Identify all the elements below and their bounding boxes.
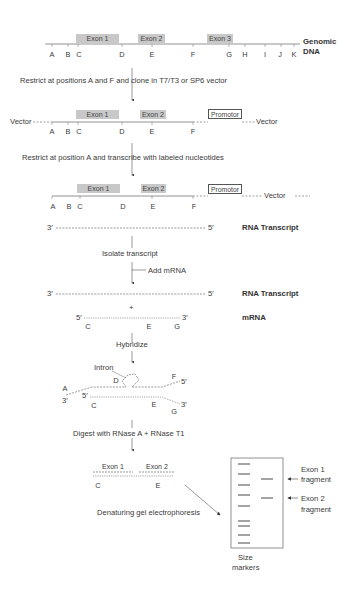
mrna-3prime: 3′ xyxy=(182,314,188,322)
hybrid-pos-e: E xyxy=(152,401,157,408)
gel-size-markers-1: Size xyxy=(238,554,253,562)
hybrid-3prime-left: 3′ xyxy=(62,397,68,405)
genomic-pos-g: G xyxy=(226,51,232,58)
digest-exon-1-label: Exon 1 xyxy=(102,463,124,470)
linear-pos-c: C xyxy=(77,203,82,210)
step-restrict-clone: Restrict at positions A and F and clone … xyxy=(20,77,227,85)
gel-size-markers-2: markers xyxy=(232,564,259,572)
step-hybridize: Hybridize xyxy=(116,341,148,349)
vector-pos-c: C xyxy=(76,128,81,135)
vector-exon-1: Exon 1 xyxy=(76,110,119,119)
gel-exon1-label-1: Exon 1 xyxy=(301,466,325,474)
mrna-5prime: 5′ xyxy=(76,314,82,322)
step-isolate: Isolate transcript xyxy=(102,250,158,258)
hybrid-pos-c: C xyxy=(91,402,96,409)
linear-pos-e: E xyxy=(151,203,156,210)
digest-exon-2-label: Exon 2 xyxy=(146,463,168,470)
gel-exon2-label-1: Exon 2 xyxy=(301,495,325,503)
step-digest: Digest with RNase A + RNase T1 xyxy=(73,430,185,438)
genomic-pos-e: E xyxy=(150,51,155,58)
transcript2-label: RNA Transcript xyxy=(242,290,298,298)
gel-exon2-label-2: fragment xyxy=(301,506,331,514)
mrna-pos-g: G xyxy=(174,323,180,330)
digest-pos-c: C xyxy=(95,482,100,489)
linear-pos-a: A xyxy=(51,203,56,210)
genomic-exon-1: Exon 1 xyxy=(76,34,119,43)
transcript2-3prime: 3′ xyxy=(47,290,53,298)
genomic-pos-k: K xyxy=(292,51,297,58)
linear-exon-1: Exon 1 xyxy=(77,184,120,193)
vector-promoter: Promotor xyxy=(208,109,242,119)
genomic-pos-f: F xyxy=(191,51,196,58)
genomic-exon-3: Exon 3 xyxy=(207,34,233,43)
mrna-pos-c: C xyxy=(85,323,90,330)
genomic-pos-c: C xyxy=(76,51,81,58)
digest-pos-e: E xyxy=(156,482,161,489)
vector-left-label: Vector xyxy=(10,118,32,126)
hybrid-5prime-top: 5′ xyxy=(181,378,187,386)
linear-pos-f: F xyxy=(192,203,197,210)
vector-pos-d: D xyxy=(119,128,124,135)
vector-right-label: Vector xyxy=(256,118,278,126)
linear-pos-b: B xyxy=(67,203,72,210)
genomic-dna-label-1: Genomic xyxy=(303,38,336,46)
genomic-pos-a: A xyxy=(50,51,55,58)
linear-exon-2: Exon 2 xyxy=(141,184,166,193)
vector-exon-2: Exon 2 xyxy=(140,110,166,119)
mrna-pos-e: E xyxy=(147,323,152,330)
genomic-pos-j: J xyxy=(278,51,282,58)
hybrid-pos-f: F xyxy=(172,373,177,380)
transcript2-5prime: 5′ xyxy=(208,290,214,298)
genomic-pos-d: D xyxy=(119,51,124,58)
mrna-plus: + xyxy=(129,304,133,312)
vector-pos-b: B xyxy=(66,128,71,135)
vector-pos-e: E xyxy=(150,128,155,135)
step-add-mrna: Add mRNA xyxy=(148,267,186,275)
mrna-label: mRNA xyxy=(242,314,266,322)
vector-pos-a: A xyxy=(50,128,55,135)
transcript1-3prime: 3′ xyxy=(47,224,53,232)
step-gel: Denaturing gel electrophoresis xyxy=(97,509,200,517)
hybrid-3prime-right: 3′ xyxy=(181,401,187,409)
vector-pos-f: F xyxy=(191,128,196,135)
genomic-pos-i: I xyxy=(264,51,266,58)
linear-vector-label: Vector xyxy=(264,192,286,200)
gel-exon1-label-2: fragment xyxy=(301,476,331,484)
linear-pos-d: D xyxy=(120,203,125,210)
hybrid-pos-a: A xyxy=(63,385,68,392)
hybrid-5prime-bottom: 5′ xyxy=(82,392,88,400)
genomic-dna-label-2: DNA xyxy=(303,48,320,56)
linear-promoter: Promotor xyxy=(208,184,242,194)
step-restrict-transcribe: Restrict at position A and transcribe wi… xyxy=(22,154,224,162)
genomic-pos-h: H xyxy=(242,51,247,58)
transcript1-label: RNA Transcript xyxy=(242,224,298,232)
genomic-pos-b: B xyxy=(66,51,71,58)
hybrid-pos-g: G xyxy=(171,408,177,415)
hybrid-intron-label: Intron xyxy=(94,364,113,372)
hybrid-pos-d: D xyxy=(113,377,118,384)
genomic-exon-2: Exon 2 xyxy=(138,34,165,43)
transcript1-5prime: 5′ xyxy=(208,224,214,232)
